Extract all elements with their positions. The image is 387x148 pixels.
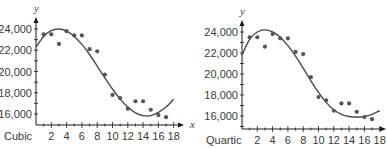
data-point [118,96,122,100]
x-tick-label: 4 [270,134,276,146]
x-tick-label: 16 [358,134,370,146]
x-tick-label: 18 [374,134,386,146]
x-tick-label: 14 [343,134,355,146]
y-tick-label: 18,000 [0,87,32,99]
data-point [133,99,137,103]
data-point [301,52,305,56]
data-point [110,93,114,97]
x-tick-label: 10 [106,130,118,142]
x-tick-label: 4 [64,130,70,142]
data-point [263,45,267,49]
x-axis-label: x [189,118,195,130]
data-point [164,115,168,119]
data-point [286,36,290,40]
data-point [324,98,328,102]
data-point [248,35,252,39]
data-point [309,75,313,79]
data-point [103,73,107,77]
data-point [332,109,336,113]
data-point [72,33,76,37]
data-point [347,101,351,105]
data-point [339,101,343,105]
y-tick-label: 16,000 [0,108,32,120]
x-tick-label: 18 [168,130,180,142]
cubic-chart-panel: yx16,00018,00020,00022,00024,00024681012… [0,2,195,142]
data-point [126,107,130,111]
data-point [255,35,259,39]
x-tick-label: 12 [122,130,134,142]
data-point [42,32,46,36]
y-tick-label: 20,000 [0,66,32,78]
y-axis-arrow-icon [34,17,39,23]
x-tick-label: 6 [285,134,291,146]
y-tick-label: 22,000 [0,44,32,56]
data-point [362,115,366,119]
data-point [49,32,53,36]
y-tick-label: 24,000 [204,26,238,38]
data-point [355,110,359,114]
data-point [149,108,153,112]
data-point [65,29,69,33]
model-label: Cubic [4,130,33,142]
x-axis-arrow-icon [380,127,386,132]
x-tick-label: 16 [152,130,164,142]
x-tick-label: 8 [300,134,306,146]
chart-canvas: yx16,00018,00020,00022,00024,00024681012… [0,0,387,148]
x-tick-label: 10 [312,134,324,146]
data-point [80,33,84,37]
data-point [156,113,160,117]
fit-curve [36,29,174,116]
quartic-chart-panel: y16,00018,00020,00022,00024,000246810121… [204,5,386,146]
data-point [95,49,99,53]
data-point [370,117,374,121]
x-tick-label: 6 [79,130,85,142]
y-tick-label: 16,000 [204,110,238,122]
data-point [57,42,61,46]
y-tick-label: 22,000 [204,47,238,59]
data-point [141,99,145,103]
fit-curve [242,30,380,117]
data-point [278,36,282,40]
x-tick-label: 14 [137,130,149,142]
y-tick-label: 20,000 [204,68,238,80]
x-tick-label: 8 [94,130,100,142]
y-tick-label: 18,000 [204,89,238,101]
y-axis-label: y [33,2,39,14]
data-point [271,32,275,36]
x-tick-label: 2 [254,134,260,146]
model-label: Quartic [206,134,242,146]
x-tick-label: 2 [48,130,54,142]
x-tick-label: 12 [328,134,340,146]
y-tick-label: 24,000 [0,23,32,35]
data-point [316,95,320,99]
x-axis-arrow-icon [178,123,184,128]
y-axis-label: y [239,5,245,17]
data-point [293,50,297,54]
y-axis-arrow-icon [240,20,245,26]
data-point [87,47,91,51]
